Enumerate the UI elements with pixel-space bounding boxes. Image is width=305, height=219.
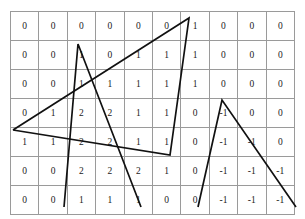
grid-cell-r4c1: 1 [39, 128, 67, 157]
table-row: 0 0 1 1 1 1 1 0 0 0 [11, 70, 295, 99]
grid-cell-r0c4: 0 [124, 12, 152, 41]
grid-cell-r1c9: 0 [266, 41, 294, 70]
grid-cell-r1c7: 0 [209, 41, 237, 70]
grid-cell-r2c7: 0 [209, 70, 237, 99]
grid-cell-r5c1: 0 [39, 157, 67, 186]
grid-cell-r5c3: 2 [96, 157, 124, 186]
grid-cell-r3c9: 0 [266, 99, 294, 128]
grid-cell-r0c6: 1 [181, 12, 209, 41]
grid-cell-r5c4: 2 [124, 157, 152, 186]
grid-cell-r2c0: 0 [11, 70, 39, 99]
grid-cell-r1c6: 1 [181, 41, 209, 70]
table-row: 0 0 0 0 0 0 1 0 0 0 [11, 12, 295, 41]
grid-cell-r6c7: -1 [209, 186, 237, 215]
grid-cell-r4c3: 2 [96, 128, 124, 157]
grid-cell-r5c8: -1 [238, 157, 266, 186]
grid-cell-r1c1: 0 [39, 41, 67, 70]
grid-cell-r3c2: 2 [67, 99, 95, 128]
grid-cell-r4c9: 0 [266, 128, 294, 157]
grid-cell-r1c2: 1 [67, 41, 95, 70]
grid-cell-r3c3: 2 [96, 99, 124, 128]
grid-cell-r2c2: 1 [67, 70, 95, 99]
grid-cell-r5c6: 0 [181, 157, 209, 186]
grid-cell-r3c5: 1 [152, 99, 180, 128]
grid-cell-r5c0: 0 [11, 157, 39, 186]
table-row: 0 0 2 2 2 1 0 -1 -1 -1 [11, 157, 295, 186]
grid-cell-r5c2: 2 [67, 157, 95, 186]
grid-cell-r6c6: 0 [181, 186, 209, 215]
grid-cell-r2c8: 0 [238, 70, 266, 99]
grid-cell-r0c0: 0 [11, 12, 39, 41]
grid-cell-r4c8: -1 [238, 128, 266, 157]
grid-cell-r6c4: 1 [124, 186, 152, 215]
grid-cell-r0c1: 0 [39, 12, 67, 41]
grid-cell-r4c7: -1 [209, 128, 237, 157]
grid-cell-r3c6: 0 [181, 99, 209, 128]
grid-cell-r1c3: 0 [96, 41, 124, 70]
figure-container: 0 0 0 0 0 0 1 0 0 0 0 0 1 0 1 1 1 0 0 [0, 0, 305, 219]
grid-cell-r3c1: 1 [39, 99, 67, 128]
table-row: 0 0 1 0 1 1 1 0 0 0 [11, 41, 295, 70]
grid-cell-r1c4: 1 [124, 41, 152, 70]
value-grid: 0 0 0 0 0 0 1 0 0 0 0 0 1 0 1 1 1 0 0 [10, 11, 295, 215]
grid-cell-r3c7: -1 [209, 99, 237, 128]
grid-cell-r3c0: 0 [11, 99, 39, 128]
grid-cell-r2c3: 1 [96, 70, 124, 99]
table-row: 1 1 2 2 1 1 0 -1 -1 0 [11, 128, 295, 157]
table-row: 0 1 2 2 1 1 0 -1 0 0 [11, 99, 295, 128]
grid-cell-r5c7: -1 [209, 157, 237, 186]
grid-cell-r6c3: 1 [96, 186, 124, 215]
grid-cell-r2c4: 1 [124, 70, 152, 99]
grid-cell-r4c5: 1 [152, 128, 180, 157]
grid-cell-r3c4: 1 [124, 99, 152, 128]
grid-cell-r6c1: 0 [39, 186, 67, 215]
grid-cell-r2c1: 0 [39, 70, 67, 99]
grid-cell-r6c2: 1 [67, 186, 95, 215]
grid-cell-r4c0: 1 [11, 128, 39, 157]
grid-cell-r0c2: 0 [67, 12, 95, 41]
grid-cell-r0c3: 0 [96, 12, 124, 41]
grid-cell-r4c2: 2 [67, 128, 95, 157]
grid-cell-r5c9: -1 [266, 157, 294, 186]
grid-cell-r2c5: 1 [152, 70, 180, 99]
grid-cell-r6c8: -1 [238, 186, 266, 215]
grid-cell-r3c8: 0 [238, 99, 266, 128]
grid-cell-r6c0: 0 [11, 186, 39, 215]
grid-cell-r4c4: 1 [124, 128, 152, 157]
grid-cell-r1c0: 0 [11, 41, 39, 70]
grid-cell-r1c5: 1 [152, 41, 180, 70]
grid-cell-r1c8: 0 [238, 41, 266, 70]
grid-cell-r0c5: 0 [152, 12, 180, 41]
grid-cell-r0c8: 0 [238, 12, 266, 41]
grid-cell-r6c5: 0 [152, 186, 180, 215]
grid-cell-r2c9: 0 [266, 70, 294, 99]
grid-cell-r5c5: 1 [152, 157, 180, 186]
grid-cell-r2c6: 1 [181, 70, 209, 99]
grid-cell-r0c7: 0 [209, 12, 237, 41]
grid-cell-r0c9: 0 [266, 12, 294, 41]
grid-cell-r4c6: 0 [181, 128, 209, 157]
table-row: 0 0 1 1 1 0 0 -1 -1 -1 [11, 186, 295, 215]
grid-cell-r6c9: -1 [266, 186, 294, 215]
grid-body: 0 0 0 0 0 0 1 0 0 0 0 0 1 0 1 1 1 0 0 [11, 12, 295, 215]
